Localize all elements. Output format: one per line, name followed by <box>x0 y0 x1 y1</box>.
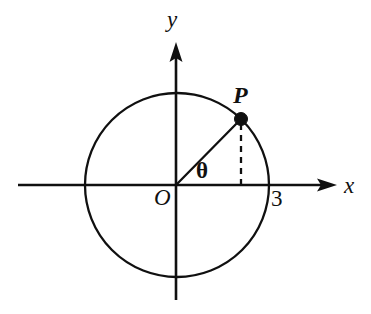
point-P-dot <box>235 113 248 126</box>
x-axis-label: x <box>344 174 354 197</box>
origin-label: O <box>154 186 171 209</box>
angle-theta-label: θ <box>196 159 208 182</box>
point-P-label: P <box>233 83 248 107</box>
radius-segment-OP <box>176 119 241 185</box>
diagram-svg <box>0 0 371 314</box>
x-intercept-label-3: 3 <box>271 187 283 210</box>
geometry-diagram-canvas: y x P O θ 3 <box>0 0 371 314</box>
y-axis-label: y <box>167 8 177 31</box>
